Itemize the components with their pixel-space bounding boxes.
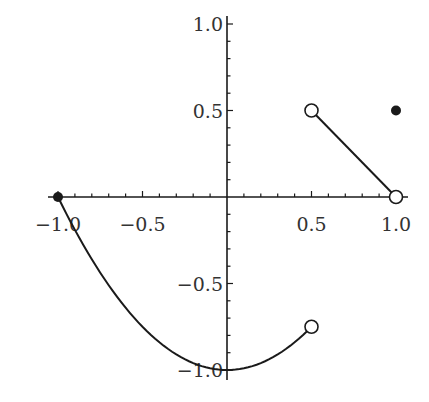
line-segment xyxy=(312,111,397,198)
y-tick-label: 0.5 xyxy=(193,100,223,122)
x-tick-label: 0.5 xyxy=(296,213,326,235)
open-circle-icon xyxy=(305,320,318,333)
x-tick-label: −1.0 xyxy=(35,213,81,235)
function-plot: −1.0−0.50.51.01.00.5−0.5−1.0 xyxy=(0,0,429,402)
y-tick-label: 1.0 xyxy=(193,13,223,35)
x-tick-label: 1.0 xyxy=(381,213,411,235)
filled-dot-icon xyxy=(391,106,401,116)
y-tick-label: −0.5 xyxy=(177,273,223,295)
axes xyxy=(48,16,408,380)
filled-dot-icon xyxy=(53,192,63,202)
x-tick-label: −0.5 xyxy=(119,213,165,235)
open-circle-icon xyxy=(390,191,403,204)
open-circle-icon xyxy=(305,104,318,117)
